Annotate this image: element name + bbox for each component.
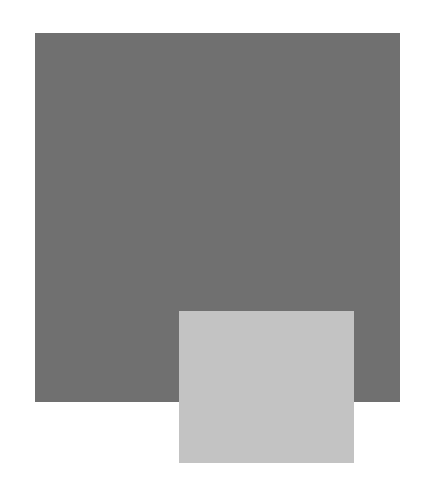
light-gray-block [179,311,354,463]
